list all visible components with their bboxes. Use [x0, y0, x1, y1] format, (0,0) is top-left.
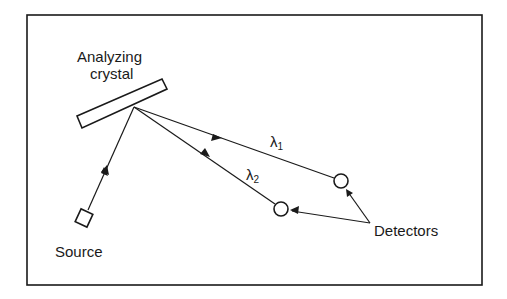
beam-lambda1 [134, 107, 334, 178]
diagram-canvas: Analyzing crystal Source λ1 λ2 Detectors [0, 0, 507, 299]
detectors-label: Detectors [374, 222, 438, 239]
lambda2-label: λ2 [246, 166, 260, 185]
beam-lambda2 [134, 107, 275, 204]
source-label: Source [55, 243, 103, 260]
source-icon [75, 209, 93, 227]
pointer2-arrowhead-icon [290, 206, 299, 214]
crystal-label-line2: crystal [90, 65, 133, 82]
pointer-to-detector-1 [348, 192, 370, 223]
pointer1-arrowhead-icon [346, 189, 353, 197]
detector-2 [274, 202, 288, 216]
detector-1 [334, 174, 348, 188]
crystal-label-line1: Analyzing [77, 48, 142, 65]
lambda1-label: λ1 [270, 133, 284, 152]
pointer-to-detector-2 [292, 211, 370, 223]
